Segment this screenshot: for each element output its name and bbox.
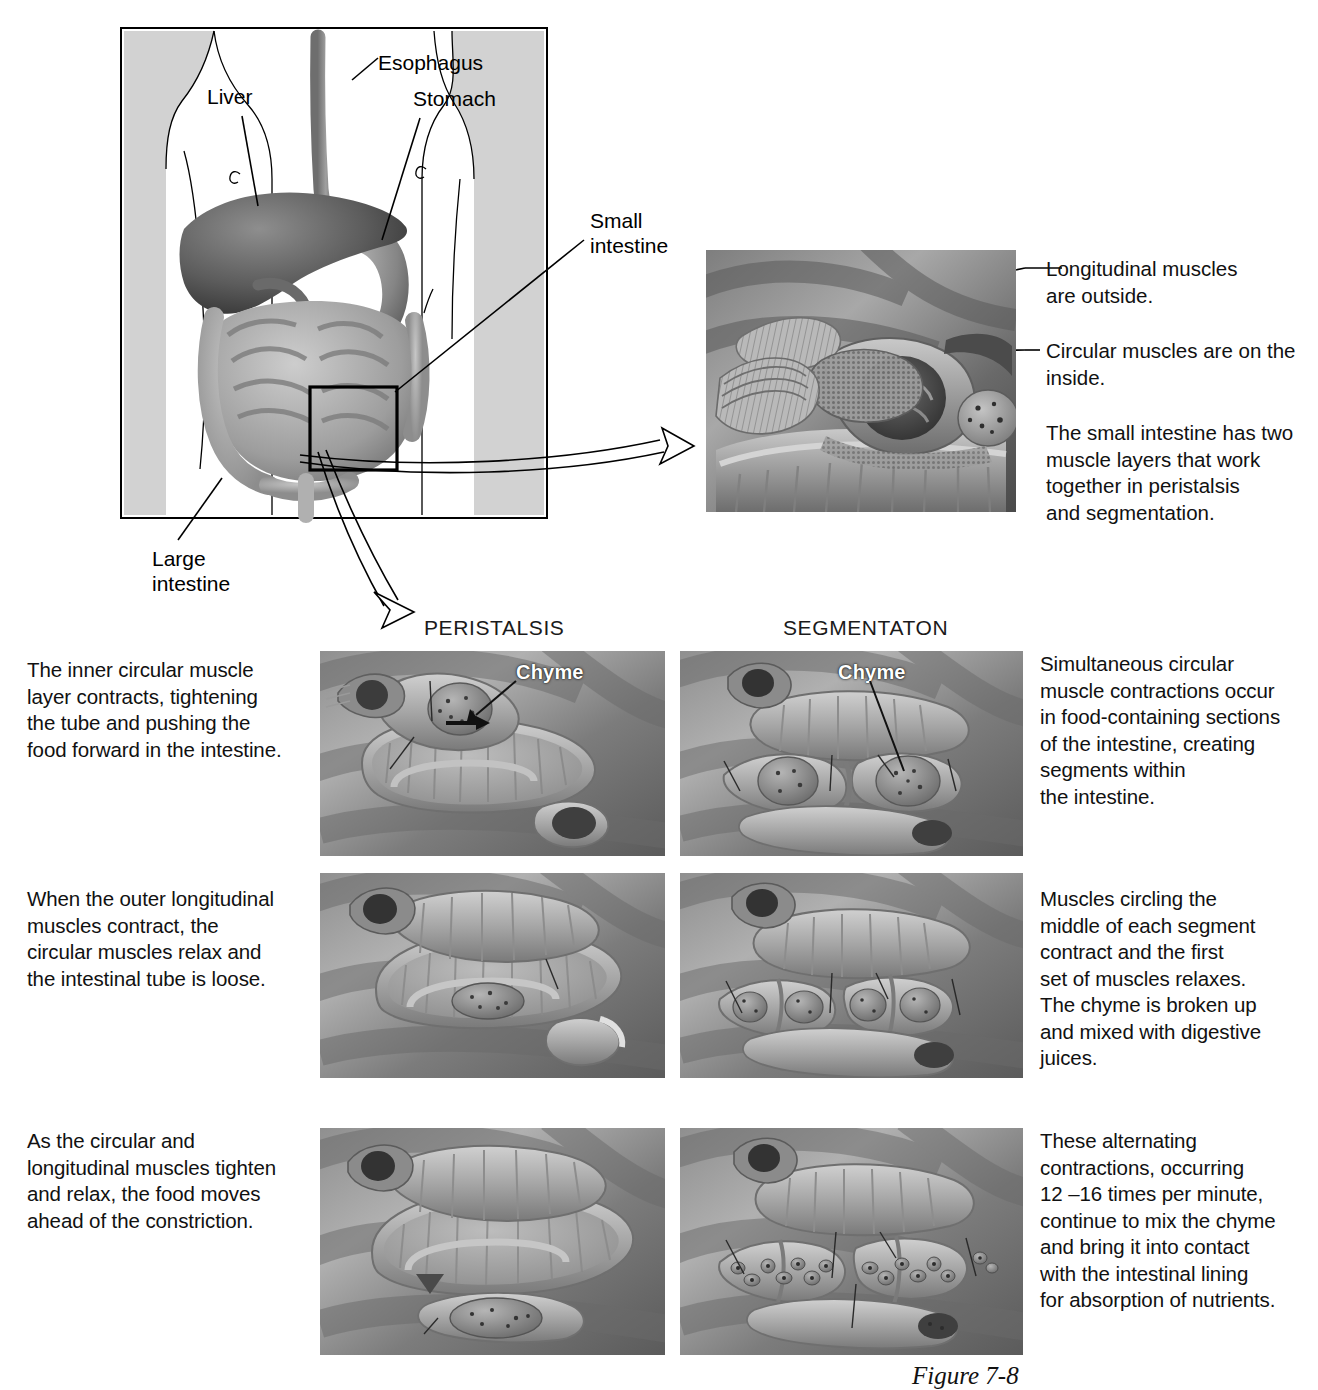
panel-artwork-p1 — [320, 651, 665, 856]
row3-left-description: As the circular and longitudinal muscles… — [27, 1128, 323, 1234]
figure-caption: Figure 7-8 — [912, 1362, 1019, 1390]
panel-artwork-p3 — [320, 1128, 665, 1355]
panel-segmentation-step2 — [680, 873, 1023, 1078]
label-small-intestine: Small intestine — [590, 208, 668, 258]
column-header-segmentation: SEGMENTATON — [783, 616, 948, 640]
chyme-label-segmentation: Chyme — [838, 661, 906, 684]
row2-left-description: When the outer longitudinal muscles cont… — [27, 886, 319, 992]
label-stomach: Stomach — [413, 86, 496, 111]
callout-summary: The small intestine has two muscle layer… — [1046, 420, 1318, 526]
label-large-intestine: Large intestine — [152, 546, 230, 596]
muscle-layer-inset-illustration — [706, 250, 1016, 512]
callout-circular-muscles: Circular muscles are on the inside. — [1046, 338, 1318, 391]
panel-peristalsis-step2 — [320, 873, 665, 1078]
chyme-label-peristalsis: Chyme — [516, 661, 584, 684]
panel-segmentation-step1: Chyme — [680, 651, 1023, 856]
row1-right-description: Simultaneous circular muscle contraction… — [1040, 651, 1312, 810]
label-liver: Liver — [207, 84, 253, 109]
small-intestine-shape — [213, 301, 416, 481]
panel-artwork-p2 — [320, 873, 665, 1078]
chyme-bolus — [428, 683, 492, 735]
panel-peristalsis-step3 — [320, 1128, 665, 1355]
column-header-peristalsis: PERISTALSIS — [424, 616, 564, 640]
row1-left-description: The inner circular muscle layer contract… — [27, 657, 307, 763]
row2-right-description: Muscles circling the middle of each segm… — [1040, 886, 1316, 1072]
inset-artwork — [706, 250, 1016, 512]
panel-artwork-s3 — [680, 1128, 1023, 1355]
panel-segmentation-step3 — [680, 1128, 1023, 1355]
row3-right-description: These alternating contractions, occurrin… — [1040, 1128, 1318, 1314]
label-esophagus: Esophagus — [378, 50, 483, 75]
panel-peristalsis-step1: Chyme — [320, 651, 665, 856]
callout-longitudinal-muscles: Longitudinal muscles are outside. — [1046, 256, 1312, 309]
panel-artwork-s2 — [680, 873, 1023, 1078]
